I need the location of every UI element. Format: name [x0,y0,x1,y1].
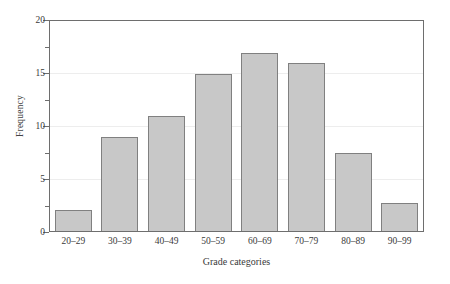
x-axis-tick-label: 60–69 [237,236,283,246]
x-axis-tick-label: 90–99 [377,236,423,246]
bar [381,203,418,231]
bar [241,53,278,232]
x-axis-tick-label: 20–29 [50,236,96,246]
y-axis-tick-label: 5 [5,174,45,184]
x-axis-tick-label: 80–89 [330,236,376,246]
y-axis-tick-label: 0 [5,227,45,237]
bar-series [50,21,423,231]
x-axis-tick-label: 40–49 [144,236,190,246]
x-axis-tick-label: 50–59 [190,236,236,246]
histogram-chart: Frequency 05101520 20–2930–3940–4950–596… [0,0,450,284]
bar [288,63,325,231]
bar [55,210,92,231]
y-axis-tick-label: 10 [5,121,45,131]
x-axis-tick-labels: 20–2930–3940–4950–5960–6970–7980–8990–99 [50,236,423,246]
y-axis-tick-label: 15 [5,68,45,78]
bar [101,137,138,232]
x-axis-tick-label: 30–39 [97,236,143,246]
x-axis-tick-label: 70–79 [283,236,329,246]
x-axis-title: Grade categories [49,256,424,267]
y-axis-tick-label: 20 [5,15,45,25]
bar [335,153,372,231]
bar [148,116,185,232]
bar [195,74,232,232]
y-axis-title: Frequency [10,0,30,232]
